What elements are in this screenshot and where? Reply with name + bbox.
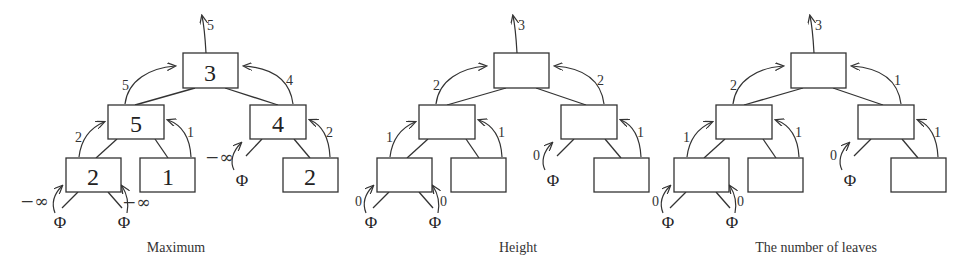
- label-ll-out: 1: [683, 130, 690, 145]
- node-root: [791, 53, 846, 88]
- arrow-root-out: [202, 16, 206, 53]
- arrow-left-to-root: [125, 66, 175, 104]
- node-right: [561, 105, 617, 139]
- edge-root-right: [225, 88, 278, 105]
- caption-number-of-leaves: The number of leaves: [755, 240, 877, 255]
- label-ll-null-left: 0: [355, 194, 362, 209]
- null-ll-left: Φ: [662, 213, 674, 232]
- node-right-right: [891, 158, 946, 192]
- label-right-out: 1: [894, 73, 901, 88]
- node-left-right: [748, 158, 803, 192]
- edge-left-ll: [407, 139, 428, 158]
- label-ll-out: 1: [386, 130, 393, 145]
- arrow-root-out: [810, 16, 814, 53]
- label-root-out: 5: [207, 18, 214, 33]
- edge-root-left: [744, 88, 803, 105]
- edge-ll-null-left: [373, 192, 389, 208]
- edge-ll-null-left: [670, 192, 686, 208]
- edge-ll-null-right: [419, 192, 433, 208]
- arrow-left-to-root: [436, 66, 486, 104]
- edge-left-ll: [704, 139, 725, 158]
- null-ll-left: Φ: [365, 213, 377, 232]
- label-rr-out: 1: [637, 125, 644, 140]
- label-left-out: 2: [730, 78, 737, 93]
- arrow-root-out: [513, 16, 517, 53]
- arrow-ll-to-left: [390, 122, 415, 157]
- label-rr-out: 1: [934, 125, 941, 140]
- label-right-null: 0: [533, 148, 540, 163]
- node-right-right-value: 2: [304, 164, 316, 190]
- tree-diagram-canvas: 3 5 4 2 1 2 5 5 4 2 1 2 −∞ Φ −∞ Φ −∞ Φ M…: [0, 0, 964, 279]
- panel-maximum: 3 5 4 2 1 2 5 5 4 2 1 2 −∞ Φ −∞ Φ −∞ Φ M…: [20, 16, 338, 255]
- edge-right-null: [246, 139, 262, 156]
- edge-root-right: [833, 88, 883, 105]
- node-left-left: [674, 158, 729, 192]
- caption-maximum: Maximum: [147, 240, 205, 255]
- caption-height: Height: [499, 240, 537, 255]
- edge-left-ll: [96, 139, 117, 158]
- edge-right-null: [854, 139, 871, 156]
- node-left: [419, 105, 475, 139]
- edge-left-lr: [466, 139, 479, 158]
- edge-root-left: [135, 88, 195, 105]
- edge-left-lr: [155, 139, 168, 158]
- label-right-null: 0: [830, 148, 837, 163]
- arrow-ll-null-left: [661, 186, 670, 213]
- panel-height: 3 2 2 1 1 1 0 Φ 0 Φ 0 Φ Height: [355, 16, 649, 255]
- edge-ll-null-left: [62, 192, 78, 208]
- label-lr-out: 1: [795, 125, 802, 140]
- label-lr-out: 1: [187, 125, 194, 140]
- null-right-left: Φ: [236, 171, 248, 190]
- arrow-ll-to-left: [79, 122, 104, 157]
- arrow-ll-null-left: [53, 186, 62, 213]
- label-ll-out: 2: [75, 130, 82, 145]
- label-right-null: −∞: [205, 147, 233, 167]
- node-left-right-value: 1: [162, 164, 174, 190]
- node-right: [858, 105, 914, 139]
- edge-root-left: [447, 88, 506, 105]
- null-ll-right: Φ: [118, 213, 130, 232]
- panel-number-of-leaves: 3 2 1 1 1 1 0 Φ 0 Φ 0 Φ The number of le…: [652, 16, 946, 255]
- node-left-left-value: 2: [87, 164, 99, 190]
- label-ll-null-left: 0: [652, 194, 659, 209]
- node-right-value: 4: [272, 111, 284, 137]
- label-left-out: 2: [433, 78, 440, 93]
- label-right-out: 2: [597, 73, 604, 88]
- edge-ll-null-right: [716, 192, 730, 208]
- arrow-ll-null-right: [433, 186, 439, 213]
- label-root-out: 3: [518, 18, 525, 33]
- edge-right-null: [557, 139, 574, 156]
- arrow-left-to-root: [733, 66, 783, 104]
- edge-root-right: [536, 88, 586, 105]
- arrow-right-null: [543, 143, 552, 170]
- null-ll-right: Φ: [429, 213, 441, 232]
- node-root: [494, 53, 549, 88]
- node-left: [716, 105, 772, 139]
- edge-right-rr: [294, 139, 310, 158]
- label-left-out: 5: [122, 78, 129, 93]
- arrow-ll-null-right: [730, 186, 736, 213]
- null-ll-right: Φ: [726, 213, 738, 232]
- label-lr-out: 1: [498, 125, 505, 140]
- edge-ll-null-right: [108, 192, 122, 208]
- arrow-ll-null-left: [364, 186, 373, 213]
- node-left-value: 5: [130, 111, 142, 137]
- edge-right-rr: [605, 139, 621, 158]
- label-ll-null-left: −∞: [20, 191, 48, 211]
- node-left-right: [451, 158, 506, 192]
- label-right-out: 4: [286, 73, 293, 88]
- node-root-value: 3: [204, 60, 216, 86]
- label-ll-null-right: 0: [737, 194, 744, 209]
- edge-left-lr: [763, 139, 776, 158]
- node-left-left: [377, 158, 432, 192]
- null-right-left: Φ: [547, 171, 559, 190]
- label-root-out: 3: [815, 18, 822, 33]
- node-right-right: [594, 158, 649, 192]
- null-ll-left: Φ: [54, 213, 66, 232]
- edge-right-rr: [902, 139, 918, 158]
- label-ll-null-right: −∞: [122, 192, 150, 212]
- arrow-ll-to-left: [687, 122, 712, 157]
- label-rr-out: 2: [326, 125, 333, 140]
- label-ll-null-right: 0: [440, 194, 447, 209]
- arrow-right-null: [840, 143, 849, 170]
